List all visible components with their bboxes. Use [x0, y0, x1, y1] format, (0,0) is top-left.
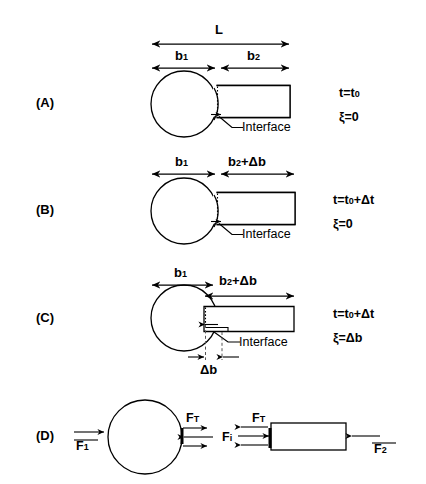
- dimension-label-b2db-b-suffix: +Δb: [241, 154, 266, 169]
- dimension-label-b1: b1: [175, 48, 188, 63]
- force-label-Fi-sub: i: [230, 433, 233, 443]
- force-label-FT-right-sub: T: [260, 414, 266, 424]
- force-label-Fi: Fi: [222, 430, 232, 444]
- dimension-label-b1-b-base: b: [175, 154, 183, 169]
- bubble-circle-a: [151, 71, 217, 137]
- state-time-a-base: t=t: [339, 86, 355, 100]
- diagram-svg: [0, 0, 426, 484]
- force-label-FT-right-base: F: [252, 411, 260, 425]
- bubble-circle-b: [151, 178, 217, 244]
- force-label-F1: F1: [76, 439, 89, 453]
- dimension-label-b2db-c: b2+Δb: [219, 273, 257, 288]
- force-label-F1-base: F: [76, 439, 84, 453]
- state-xi-c: ξ=Δb: [333, 331, 363, 345]
- interface-label-b: Interface: [242, 227, 291, 241]
- state-time-b: t=t0+Δt: [333, 193, 374, 207]
- force-label-Fi-base: F: [222, 430, 230, 444]
- panel-letter-a: (A): [36, 95, 54, 110]
- panel-letter-b: (B): [36, 202, 54, 217]
- dimension-label-b2db-b-base: b: [228, 154, 236, 169]
- panel-d-graphics: [74, 400, 396, 474]
- force-label-F2-base: F: [374, 442, 382, 456]
- state-time-c-extra: +Δt: [354, 307, 374, 321]
- dimension-label-b2: b2: [247, 48, 260, 63]
- dimension-label-b1-sub: 1: [183, 52, 188, 62]
- capillary-tube-b-outline: [217, 193, 296, 225]
- dimension-label-L: L: [215, 22, 223, 37]
- panel-letter-d: (D): [36, 428, 54, 443]
- dimension-label-b1-base: b: [175, 48, 183, 63]
- state-time-c: t=t0+Δt: [333, 307, 374, 321]
- state-xi-b: ξ=0: [333, 217, 353, 231]
- dimension-label-b1-c: b1: [174, 265, 187, 280]
- force-label-FT-left-base: F: [186, 411, 194, 425]
- state-time-b-base: t=t: [333, 193, 349, 207]
- bubble-circle-d: [108, 400, 182, 474]
- dimension-label-b2db-b: b2+Δb: [228, 154, 266, 169]
- dimension-label-b2db-c-base: b: [219, 273, 227, 288]
- dimension-label-b1-b: b1: [175, 154, 188, 169]
- interface-label-a: Interface: [242, 120, 291, 134]
- dimension-label-b2-sub: 2: [255, 52, 260, 62]
- capillary-tube-d: [271, 423, 346, 450]
- state-time-a: t=t0: [339, 86, 360, 100]
- dimension-label-b1-c-sub: 1: [182, 269, 187, 279]
- dimension-label-deltab-c: Δb: [200, 362, 217, 377]
- capillary-tube-a-top: [217, 86, 291, 118]
- force-label-FT-right: FT: [252, 411, 265, 425]
- interface-label-c: Interface: [239, 335, 288, 349]
- state-time-a-sub: 0: [355, 89, 360, 99]
- force-label-F1-sub: 1: [84, 442, 89, 452]
- state-xi-a: ξ=0: [339, 110, 359, 124]
- figure-canvas: (A) (B) (C) (D) L b1 b2 Interface t=t0 ξ…: [0, 0, 426, 484]
- force-label-F2: F2: [374, 442, 387, 456]
- state-time-b-extra: +Δt: [354, 193, 374, 207]
- dimension-label-b2db-c-suffix: +Δb: [232, 273, 257, 288]
- dimension-label-b2-base: b: [247, 48, 255, 63]
- force-label-FT-left-sub: T: [194, 414, 200, 424]
- state-time-c-base: t=t: [333, 307, 349, 321]
- panel-letter-c: (C): [36, 310, 54, 325]
- interface-leader-c: [214, 332, 240, 342]
- dimension-label-b1-b-sub: 1: [183, 158, 188, 168]
- force-label-FT-left: FT: [186, 411, 199, 425]
- dimension-label-b1-c-base: b: [174, 265, 182, 280]
- force-label-F2-sub: 2: [382, 445, 387, 455]
